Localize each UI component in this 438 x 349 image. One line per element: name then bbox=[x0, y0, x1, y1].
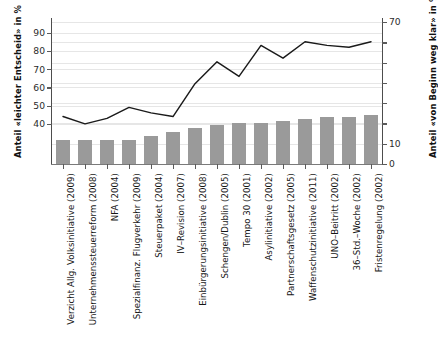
x-axis-tick bbox=[371, 164, 372, 169]
x-axis-tick-label: Verzicht Allg. Volksinitiative (2009) bbox=[66, 173, 76, 325]
right-axis-tick-label: 10 bbox=[389, 139, 401, 148]
right-axis-tick bbox=[382, 83, 387, 84]
x-axis-tick bbox=[283, 164, 284, 169]
right-axis-spine bbox=[382, 18, 383, 164]
chart-container: Anteil «leichter Entscheid» in % Anteil … bbox=[0, 0, 438, 349]
x-axis-tick-label: UNO–Beitritt (2002) bbox=[330, 173, 340, 259]
left-axis-tick-label: 70 bbox=[33, 65, 45, 74]
x-axis-tick bbox=[305, 164, 306, 169]
x-axis-tick-label: Tempo 30 (2001) bbox=[242, 173, 252, 247]
left-axis-tick bbox=[47, 124, 52, 125]
x-axis-tick bbox=[151, 164, 152, 169]
left-axis-title: Anteil «leichter Entscheid» in % bbox=[13, 8, 23, 158]
left-axis-tick bbox=[47, 51, 52, 52]
x-axis-tick-label: Steuerpaket (2004) bbox=[154, 173, 164, 258]
x-axis-tick-label: Partnerschaftsgesetz (2005) bbox=[286, 173, 296, 296]
x-axis-tick bbox=[217, 164, 218, 169]
left-axis-tick bbox=[47, 87, 52, 88]
line-series bbox=[52, 18, 382, 164]
left-axis-tick bbox=[47, 69, 52, 70]
x-axis-tick-label: IV–Revision (2007) bbox=[176, 173, 186, 254]
x-axis-tick-label: Asylinitiative (2002) bbox=[264, 173, 274, 261]
x-axis-tick bbox=[327, 164, 328, 169]
left-axis-tick bbox=[47, 106, 52, 107]
right-axis-tick-label: 70 bbox=[389, 17, 401, 26]
right-axis-tick bbox=[382, 123, 387, 124]
right-axis-tick-label: 0 bbox=[389, 159, 395, 168]
x-axis-tick bbox=[63, 164, 64, 169]
left-axis-tick-label: 90 bbox=[33, 28, 45, 37]
x-axis-tick bbox=[261, 164, 262, 169]
x-axis-tick bbox=[239, 164, 240, 169]
x-axis-tick bbox=[349, 164, 350, 169]
x-axis-tick-label: Spezialfinanz. Flugverkehr (2009) bbox=[132, 173, 142, 319]
x-axis-tick bbox=[85, 164, 86, 169]
x-axis-tick-label: Waffenschutzinitiative (2011) bbox=[308, 173, 318, 301]
x-axis-tick bbox=[129, 164, 130, 169]
x-axis-tick bbox=[107, 164, 108, 169]
right-axis-tick bbox=[382, 22, 387, 23]
x-axis-tick-label: Einbürgerungsinitiative (2008) bbox=[198, 173, 208, 306]
x-axis-tick-label: Unternehmenssteuerreform (2008) bbox=[88, 173, 98, 325]
right-axis-tick bbox=[382, 63, 387, 64]
left-axis-tick-label: 60 bbox=[33, 83, 45, 92]
right-axis-tick bbox=[382, 42, 387, 43]
left-axis-tick-label: 80 bbox=[33, 46, 45, 55]
left-axis-spine bbox=[51, 18, 52, 164]
x-axis-labels: Verzicht Allg. Volksinitiative (2009)Unt… bbox=[52, 164, 382, 349]
x-axis-tick-label: 36–Std.–Woche (2002) bbox=[352, 173, 362, 271]
right-axis-tick bbox=[382, 144, 387, 145]
right-axis-tick bbox=[382, 164, 387, 165]
x-axis-tick-label: Fristenregelung (2002) bbox=[374, 173, 384, 272]
x-axis-tick-label: Schengen/Dublin (2005) bbox=[220, 173, 230, 279]
plot-area: 405060708090 01070 bbox=[52, 18, 382, 164]
x-axis-tick bbox=[173, 164, 174, 169]
x-axis-tick-label: NFA (2004) bbox=[110, 173, 120, 221]
left-axis-tick-label: 50 bbox=[33, 101, 45, 110]
x-axis-tick bbox=[195, 164, 196, 169]
left-axis-tick bbox=[47, 33, 52, 34]
right-axis-tick bbox=[382, 103, 387, 104]
right-axis-title: Anteil «von Beginn weg klar» in % bbox=[428, 8, 438, 158]
left-axis-tick-label: 40 bbox=[33, 119, 45, 128]
